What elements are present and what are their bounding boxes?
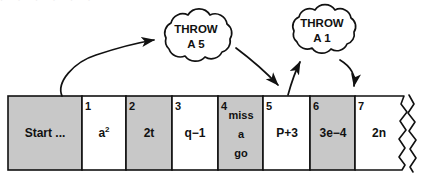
cell-5-number: 5 bbox=[266, 100, 272, 112]
cloud-1-line2: A 1 bbox=[313, 32, 331, 44]
cell-2-label: 2t bbox=[144, 126, 155, 140]
cell-6-number: 6 bbox=[313, 100, 319, 112]
cell-1-superscript: 2 bbox=[105, 125, 110, 134]
track-cell-1[interactable]: 1 a2 bbox=[82, 96, 126, 170]
cell-start-label: Start ... bbox=[25, 126, 66, 140]
cell-1-number: 1 bbox=[85, 100, 91, 112]
board-game-figure: · · · · · · Start ... 1 a2 2 bbox=[0, 0, 428, 182]
cell-4-label-line2: a bbox=[238, 128, 245, 140]
cloud-5-line1: THROW bbox=[174, 23, 218, 35]
cell-3-number: 3 bbox=[175, 100, 181, 112]
cell-2-number: 2 bbox=[129, 100, 135, 112]
figure-canvas: Start ... 1 a2 2 2t 3 q−1 bbox=[0, 0, 428, 182]
track-cell-start[interactable]: Start ... bbox=[8, 96, 82, 170]
cell-4-number: 4 bbox=[221, 100, 228, 112]
arrow-cloud-1-to-cell-7-icon bbox=[340, 60, 354, 86]
cell-4-label-line3: go bbox=[234, 147, 248, 159]
arrow-start-to-cloud-5-icon bbox=[61, 40, 154, 96]
cell-7-label: 2n bbox=[372, 126, 386, 140]
cloud-throw-a-1[interactable]: THROW A 1 bbox=[293, 5, 356, 54]
cloud-1-line1: THROW bbox=[300, 17, 344, 29]
track: Start ... 1 a2 2 2t 3 q−1 bbox=[8, 95, 416, 172]
track-cell-5[interactable]: 5 P+3 bbox=[263, 96, 310, 170]
cloud-5-line2: A 5 bbox=[187, 38, 205, 50]
cell-6-label: 3e−4 bbox=[319, 126, 346, 140]
track-cell-4[interactable]: 4 miss a go bbox=[218, 96, 263, 170]
track-cell-3[interactable]: 3 q−1 bbox=[172, 96, 218, 170]
cell-7-number: 7 bbox=[358, 100, 364, 112]
cloud-5-shape bbox=[165, 9, 232, 61]
cloud-throw-a-5[interactable]: THROW A 5 bbox=[165, 9, 232, 61]
track-cell-6[interactable]: 6 3e−4 bbox=[310, 96, 355, 170]
track-cell-2[interactable]: 2 2t bbox=[126, 96, 172, 170]
cell-4-label-line1: miss bbox=[228, 109, 253, 121]
arrow-cell-5-to-cloud-1-icon bbox=[288, 62, 300, 95]
cell-3-label: q−1 bbox=[184, 126, 205, 140]
track-cell-7[interactable]: 7 2n bbox=[355, 95, 416, 172]
arrow-cloud-5-to-cell-5-icon bbox=[236, 48, 278, 85]
torn-edge-icon bbox=[408, 95, 416, 172]
cell-5-label: P+3 bbox=[276, 126, 298, 140]
